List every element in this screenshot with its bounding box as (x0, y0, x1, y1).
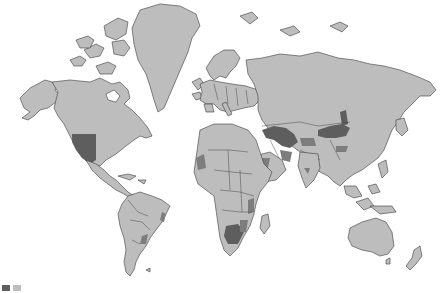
greenland (132, 4, 200, 112)
south-america (118, 192, 170, 276)
north-america (20, 18, 152, 198)
legend-swatch-dark (2, 285, 10, 291)
western-us-region (72, 134, 96, 164)
legend-swatch-light (13, 285, 21, 291)
oceania (348, 218, 422, 270)
africa (194, 124, 272, 256)
world-map (0, 0, 443, 293)
asia (246, 22, 436, 214)
map-legend (2, 285, 21, 291)
